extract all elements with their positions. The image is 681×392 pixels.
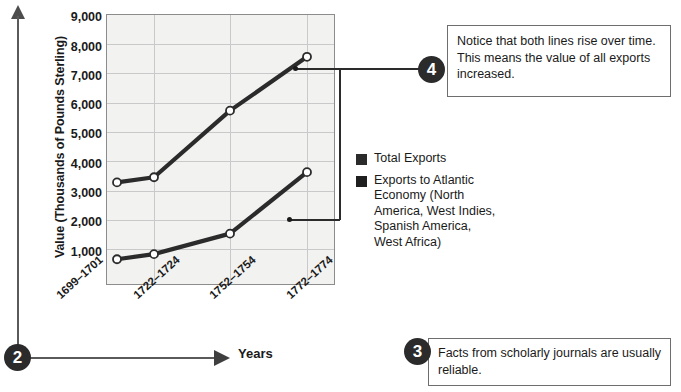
y-tick-4000: 4,000	[46, 158, 102, 171]
gridline-1722-1724	[154, 15, 155, 284]
gridline-1000	[107, 249, 334, 250]
data-point-0-0	[113, 178, 121, 186]
callout-number-3[interactable]: 3	[404, 338, 431, 365]
data-point-1-0	[113, 255, 121, 263]
gridline-6000	[107, 103, 334, 104]
x-axis-guide-arrowhead-icon	[214, 350, 230, 366]
gridline-4000	[107, 161, 334, 162]
y-tick-7000: 7,000	[46, 70, 102, 83]
legend-label-atlantic-exports: Exports to Atlantic Economy (North Ameri…	[374, 173, 496, 251]
y-tick-8000: 8,000	[46, 41, 102, 54]
callout-text-3: Facts from scholarly journals are usuall…	[438, 346, 661, 377]
gridline-7000	[107, 73, 334, 74]
y-tick-5000: 5,000	[46, 128, 102, 141]
leader-line-bottom-horizontal	[291, 219, 340, 221]
y-tick-3000: 3,000	[46, 187, 102, 200]
callout-box-4: Notice that both lines rise over time. T…	[447, 25, 671, 97]
y-tick-6000: 6,000	[46, 99, 102, 112]
leader-line-top-horizontal	[296, 68, 341, 70]
leader-endpoint-atlantic-exports	[287, 217, 292, 222]
leader-endpoint-total-exports	[293, 66, 298, 71]
callout-box-3: Facts from scholarly journals are usuall…	[428, 338, 671, 386]
y-tick-2000: 2,000	[46, 216, 102, 229]
callout-text-4: Notice that both lines rise over time. T…	[457, 34, 656, 81]
legend-item-atlantic-exports[interactable]: Exports to Atlantic Economy (North Ameri…	[356, 173, 496, 251]
legend-swatch-atlantic-exports	[356, 176, 367, 187]
legend-swatch-total-exports	[356, 154, 367, 165]
legend-item-total-exports[interactable]: Total Exports	[356, 151, 496, 167]
gridline-1752-1754	[230, 15, 231, 284]
x-axis-title: Years	[238, 346, 273, 361]
gridline-8000	[107, 44, 334, 45]
series-line-0	[117, 57, 307, 183]
gridline-1772-1774	[307, 15, 308, 284]
leader-line-to-callout-4	[339, 68, 419, 70]
y-axis-guide-line	[17, 16, 19, 358]
chart-legend: Total Exports Exports to Atlantic Econom…	[356, 151, 496, 256]
callout-number-4[interactable]: 4	[418, 56, 445, 83]
y-tick-9000: 9,000	[46, 11, 102, 24]
gridline-5000	[107, 132, 334, 133]
legend-label-total-exports: Total Exports	[374, 151, 446, 167]
graphic-organizer-figure: 2 Value (Thousands of Pounds Sterling) 9…	[0, 0, 681, 392]
gridline-3000	[107, 191, 334, 192]
leader-line-vertical	[339, 68, 341, 220]
series-lines	[107, 15, 336, 286]
plot-area	[106, 14, 335, 285]
y-axis-tick-labels: 9,000 8,000 7,000 6,000 5,000 4,000 3,00…	[46, 0, 102, 392]
callout-number-2[interactable]: 2	[4, 344, 31, 371]
series-line-1	[117, 172, 307, 259]
